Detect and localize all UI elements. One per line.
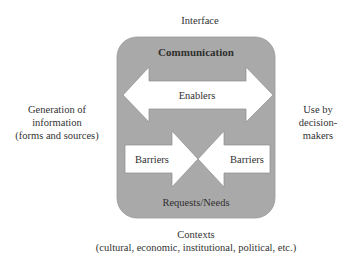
requests-needs-text: Requests/Needs [162, 197, 229, 208]
barriers-left-text: Barriers [135, 154, 169, 165]
generation-of-information-label: Generation of information (forms and sou… [0, 103, 114, 142]
communication-text: Communication [158, 46, 234, 58]
contexts-label: Contexts (cultural, economic, institutio… [60, 228, 332, 254]
barriers-right-text: Barriers [230, 154, 264, 165]
right-label-line-2: decision- [284, 116, 352, 129]
use-by-decision-makers-label: Use by decision- makers [284, 103, 352, 142]
right-label-line-3: makers [284, 129, 352, 142]
left-label-line-2: information [0, 116, 114, 129]
contexts-detail: (cultural, economic, institutional, poli… [60, 241, 332, 254]
left-label-line-3: (forms and sources) [0, 129, 114, 142]
enablers-text: Enablers [179, 90, 216, 101]
contexts-title: Contexts [60, 228, 332, 241]
interface-box [117, 37, 275, 218]
right-label-line-1: Use by [284, 103, 352, 116]
left-label-line-1: Generation of [0, 103, 114, 116]
